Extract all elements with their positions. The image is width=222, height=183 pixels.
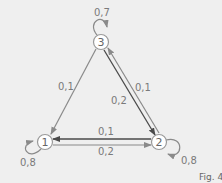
loop-label-3: 0,7 [94,7,110,18]
edge-3-to-1: 0,1 [51,49,96,134]
edge-label-1-2: 0,2 [98,146,114,157]
node-2: 2 [152,135,167,150]
edge-2-to-1: 0,1 [53,126,151,139]
node-3: 3 [94,35,109,50]
markov-diagram: 0,1 0,2 0,1 0,1 0,2 0,7 0, [0,0,222,183]
edge-2-to-3: 0,1 [108,48,159,133]
edge-label-2-1: 0,1 [98,126,114,137]
node-label-1: 1 [42,136,49,149]
self-loop-2: 0,8 [166,139,197,166]
node-1: 1 [38,135,53,150]
figure-caption: Fig. 4 [199,172,222,182]
loop-label-1: 0,8 [20,157,36,168]
diagram-svg: 0,1 0,2 0,1 0,1 0,2 0,7 0, [0,0,222,183]
edge-label-3-2: 0,2 [111,95,127,106]
node-label-2: 2 [156,136,163,149]
loop-label-2: 0,8 [181,155,197,166]
edge-label-3-1: 0,1 [58,81,74,92]
edge-1-to-2: 0,2 [53,145,151,157]
node-label-3: 3 [98,36,105,49]
edge-label-2-3: 0,1 [135,82,151,93]
self-loop-3: 0,7 [93,7,109,35]
